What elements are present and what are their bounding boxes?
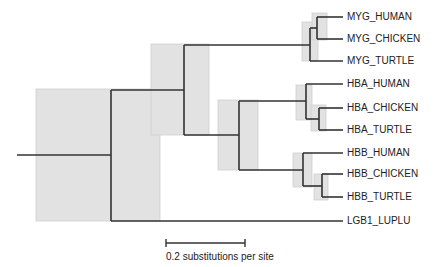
ci-box-hbb-subclade [314,174,328,200]
taxon-label: HBA_TURTLE [347,124,412,136]
taxon-label: HBA_CHICKEN [347,102,418,114]
taxon-label: HBA_HUMAN [347,78,410,90]
taxon-label: MYG_CHICKEN [347,33,420,45]
taxon-label: MYG_HUMAN [347,11,412,23]
ci-box-hba-clade [296,85,312,120]
taxon-label: MYG_TURTLE [347,55,414,67]
taxon-label: HBB_HUMAN [347,147,410,159]
taxon-label: HBB_TURTLE [347,191,412,203]
scale-bar [166,239,245,247]
taxon-label: HBB_CHICKEN [347,168,418,180]
scale-bar-label: 0.2 substitutions per site [166,251,274,263]
taxon-label: LGB1_LUPLU [347,215,410,227]
